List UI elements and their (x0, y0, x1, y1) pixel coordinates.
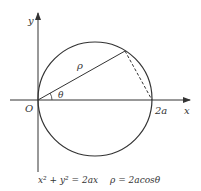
dashed-chord (125, 51, 152, 100)
origin-label: O (25, 103, 33, 114)
circle (38, 42, 152, 156)
polar-equation: ρ = 2acosθ (109, 175, 161, 185)
theta-label: θ (58, 90, 64, 100)
cartesian-equation: x² + y² = 2ax (38, 175, 98, 185)
theta-arc (50, 93, 52, 100)
y-axis-label: y (27, 15, 34, 26)
x-axis-label: x (184, 105, 190, 116)
rho-line (38, 51, 125, 100)
x-intercept-label: 2a (154, 105, 167, 116)
rho-label: ρ (76, 60, 83, 71)
polar-circle-diagram: y x O 2a ρ θ x² + y² = 2ax ρ = 2acosθ (0, 0, 201, 191)
